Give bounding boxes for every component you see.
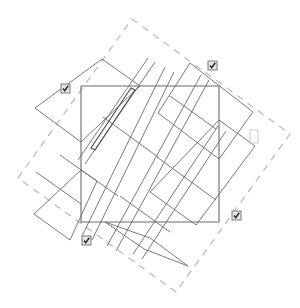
outer-dashed-boundary: [18, 19, 290, 292]
cross-6: [170, 96, 216, 129]
cross-2: [157, 157, 216, 200]
checkbox-top-left[interactable]: [61, 84, 70, 93]
checkbox-bottom-right[interactable]: [232, 211, 241, 220]
checkbox-top-right[interactable]: [208, 61, 217, 70]
diagonal-strips: [78, 58, 226, 259]
checkboxes: [61, 61, 241, 245]
diagram-canvas: [0, 0, 300, 308]
panel-right: [150, 120, 255, 225]
panel-bottom: [105, 222, 188, 266]
cross-1: [103, 117, 158, 157]
layout-diagram: [0, 0, 300, 308]
empty-box: [250, 130, 258, 143]
strip-4: [92, 72, 174, 240]
strip-3: [82, 67, 165, 236]
panel-top-left: [35, 59, 140, 142]
cross-3: [60, 155, 118, 196]
outer-dashed-rect: [18, 19, 290, 292]
strip-1: [78, 58, 148, 160]
empty-box-right: [250, 130, 258, 143]
panel-bottom-left: [34, 170, 97, 240]
center-square: [81, 86, 219, 222]
checkbox-bottom-left[interactable]: [82, 236, 91, 245]
center-square-outline: [81, 86, 219, 222]
strip-7: [133, 126, 218, 254]
